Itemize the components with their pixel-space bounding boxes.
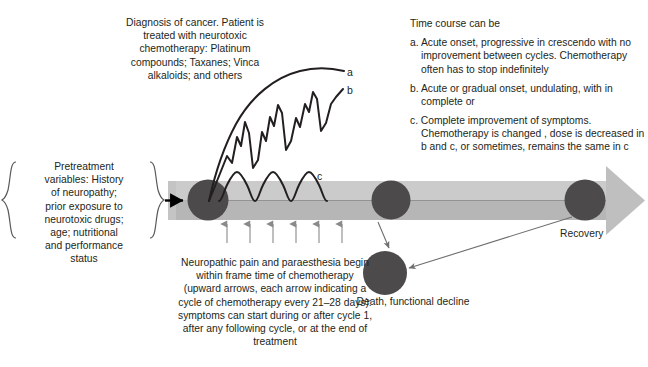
node-circle-start xyxy=(188,180,229,221)
chemo-cycle-arrows xyxy=(227,224,342,243)
node-circle-mid xyxy=(372,181,411,220)
neuropathic-line: symptoms can start during or after cycle… xyxy=(163,309,387,322)
death-outcome-arrow xyxy=(378,222,389,248)
recovery-branch-arrow xyxy=(409,217,572,268)
pretreatment-line: of neuropathy; xyxy=(22,186,146,199)
diagnosis-line: alkaloids; and others xyxy=(78,69,312,82)
pretreatment-line: variables: History xyxy=(22,173,146,186)
timecourse-item-a: a. Acute onset, progressive in crescendo… xyxy=(410,36,646,76)
timecourse-heading: Time course can be xyxy=(410,17,646,30)
pretreatment-line: and performance xyxy=(22,239,146,252)
diagnosis-text-block: Diagnosis of cancer. Patient is treated … xyxy=(78,16,312,82)
diagnosis-line: Diagnosis of cancer. Patient is xyxy=(78,16,312,29)
neuropathic-line: treatment xyxy=(163,335,387,348)
pretreatment-line: prior exposure to xyxy=(22,200,146,213)
pretreatment-line: status xyxy=(22,252,146,265)
node-circle-end xyxy=(565,180,606,221)
diagnosis-line: chemotherapy: Platinum xyxy=(78,42,312,55)
timecourse-item-c: c. Complete improvement of symptoms. Che… xyxy=(410,114,646,154)
diagnosis-line: compounds; Taxanes; Vinca xyxy=(78,56,312,69)
pretreatment-line: neurotoxic drugs; xyxy=(22,213,146,226)
pretreatment-line: Pretreatment xyxy=(22,160,146,173)
timeline-right-arrowhead xyxy=(606,166,645,235)
curve-label-b: b xyxy=(347,84,353,96)
recovery-label: Recovery xyxy=(560,228,604,239)
death-label: Death, functional decline xyxy=(333,296,493,307)
diagnosis-line: treated with neurotoxic xyxy=(78,29,312,42)
neuropathic-line: after any following cycle, or at the end… xyxy=(163,322,387,335)
neuropathic-line: (upward arrows, each arrow indicating a xyxy=(163,282,387,295)
timecourse-item-b: b. Acute or gradual onset, undulating, w… xyxy=(410,82,646,108)
curve-label-a: a xyxy=(347,66,353,78)
pretreatment-line: age; nutritional xyxy=(22,226,146,239)
neuropathic-line: within frame time of chemotherapy xyxy=(163,269,387,282)
pretreatment-text-block: Pretreatment variables: History of neuro… xyxy=(22,160,146,265)
timecourse-text-block: Time course can be a. Acute onset, progr… xyxy=(410,17,646,154)
diagram-canvas: Diagnosis of cancer. Patient is treated … xyxy=(0,0,648,367)
neuropathic-line: Neuropathic pain and paraesthesia begin xyxy=(163,256,387,269)
curve-label-c: c xyxy=(317,170,322,182)
